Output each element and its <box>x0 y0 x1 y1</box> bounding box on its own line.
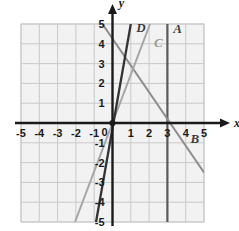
x-tick-label: -2 <box>71 127 81 139</box>
y-tick-label: -2 <box>95 157 105 169</box>
x-tick-label: 5 <box>201 127 207 139</box>
x-axis-label: x <box>233 116 239 130</box>
x-tick-label: 4 <box>183 127 190 139</box>
y-tick-label: 3 <box>98 58 104 70</box>
y-tick-label: 1 <box>98 97 104 109</box>
x-tick-label: -4 <box>34 127 45 139</box>
x-tick-label: 1 <box>128 127 134 139</box>
origin-dot <box>109 120 115 126</box>
y-tick-label: -3 <box>95 176 105 188</box>
x-tick-label: -3 <box>53 127 63 139</box>
y-tick-label: 4 <box>98 38 105 50</box>
y-axis-label: y <box>117 0 125 10</box>
y-tick-label: 5 <box>98 18 104 30</box>
series-label-c: C <box>154 35 163 50</box>
graph-figure: xy-5-4-3-2-101234554321-1-2-3-4-5ABCD <box>0 0 239 231</box>
x-axis-arrowhead <box>220 119 230 128</box>
y-axis-arrowhead <box>108 4 117 14</box>
series-label-b: B <box>190 131 200 146</box>
x-tick-label: -5 <box>16 127 26 139</box>
x-tick-label: 2 <box>146 127 152 139</box>
y-tick-label: -4 <box>95 196 106 208</box>
series-label-a: A <box>172 21 182 36</box>
y-tick-label: -5 <box>95 216 105 228</box>
series-label-d: D <box>135 20 146 35</box>
x-tick-label: 3 <box>164 127 170 139</box>
coordinate-plane-svg: xy-5-4-3-2-101234554321-1-2-3-4-5ABCD <box>0 0 239 231</box>
y-tick-label: 2 <box>98 77 104 89</box>
y-tick-label: -1 <box>95 137 105 149</box>
